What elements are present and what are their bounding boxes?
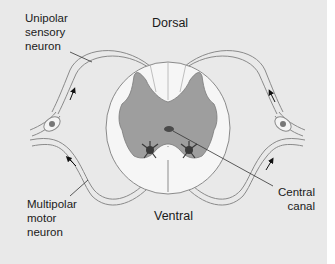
central-canal [164,126,174,132]
label-multipolar-motor-neuron: Multipolar motor neuron [27,197,77,239]
leader-multipolar [70,180,88,196]
label-unipolar-sensory-neuron: Unipolar sensory neuron [25,11,68,53]
label-ventral: Ventral [154,209,193,223]
label-central-canal: Central canal [278,185,315,213]
label-dorsal: Dorsal [152,16,188,30]
